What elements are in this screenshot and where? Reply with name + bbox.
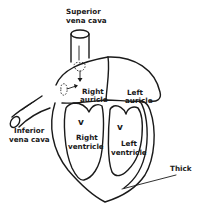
label-vena-cava-inferior: vena cava <box>9 135 50 144</box>
right-valve-mark: v <box>78 117 84 127</box>
label-thick: Thick <box>170 164 192 173</box>
label-superior: Superior <box>66 7 101 16</box>
label-left-lv: Left <box>121 139 138 148</box>
label-ventricle-left: ventricle <box>111 148 147 157</box>
label-inferior: Inferior <box>14 126 45 135</box>
heart-outline <box>52 57 161 202</box>
inferior-vena-cava-vessel <box>8 96 50 129</box>
label-vena-cava-superior: vena cava <box>66 16 107 25</box>
heart-diagram: v v Superior vena cava Right auricle Lef… <box>0 0 201 208</box>
label-ventricle-right: ventricle <box>68 142 104 151</box>
left-valve-mark: v <box>117 122 123 132</box>
auricle-septum <box>106 57 109 100</box>
label-auricle-left: auricle <box>125 96 153 105</box>
label-right-rv: Right <box>76 133 98 142</box>
label-auricle-right: auricle <box>80 95 108 104</box>
superior-vena-cava-vessel <box>71 30 89 62</box>
